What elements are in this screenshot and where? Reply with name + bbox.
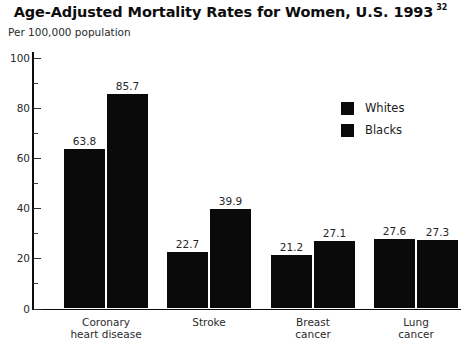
y-tick-label: 0	[2, 304, 30, 315]
y-tick-label: 40	[2, 203, 30, 214]
y-tick-label: 80	[2, 103, 30, 114]
bar-value-label: 22.7	[161, 239, 214, 250]
chart-title-text: Age-Adjusted Mortality Rates for Women, …	[14, 4, 434, 20]
bar-value-label: 63.8	[58, 136, 111, 147]
bar	[417, 240, 458, 308]
chart-title: Age-Adjusted Mortality Rates for Women, …	[0, 4, 461, 20]
bar	[374, 239, 415, 308]
y-tick-major	[33, 309, 41, 310]
bar-value-label: 21.2	[265, 242, 318, 253]
bar-value-label: 27.3	[411, 227, 461, 238]
y-tick-major	[33, 158, 41, 159]
category-label: Lung cancer	[354, 317, 461, 340]
bar	[314, 241, 355, 309]
bar	[271, 255, 312, 308]
chart-title-footnote-superscript: 32	[436, 3, 447, 12]
bar	[167, 252, 208, 309]
bar	[107, 94, 148, 309]
legend-swatch-icon	[341, 102, 354, 115]
y-tick-major	[33, 108, 41, 109]
mortality-bar-chart: Age-Adjusted Mortality Rates for Women, …	[0, 0, 461, 359]
legend: Whites Blacks	[341, 97, 404, 141]
axis-unit-label: Per 100,000 population	[8, 26, 131, 38]
y-axis-line	[32, 52, 34, 310]
y-tick-label: 20	[2, 253, 30, 264]
y-tick-minor	[33, 183, 38, 184]
bar-value-label: 27.1	[308, 228, 361, 239]
x-axis-line	[32, 309, 461, 311]
y-tick-label: 100	[2, 53, 30, 64]
y-tick-minor	[33, 283, 38, 284]
legend-label: Blacks	[365, 123, 402, 137]
y-tick-major	[33, 258, 41, 259]
bar-value-label: 85.7	[101, 81, 154, 92]
y-tick-label: 60	[2, 153, 30, 164]
y-tick-major	[33, 208, 41, 209]
y-tick-minor	[33, 133, 38, 134]
legend-label: Whites	[365, 101, 404, 115]
legend-swatch-icon	[341, 124, 354, 137]
legend-item-blacks[interactable]: Blacks	[341, 119, 404, 141]
y-tick-major	[33, 58, 41, 59]
bar	[210, 209, 251, 309]
legend-item-whites[interactable]: Whites	[341, 97, 404, 119]
bar-value-label: 39.9	[204, 196, 257, 207]
y-tick-minor	[33, 233, 38, 234]
bar	[64, 149, 105, 309]
y-tick-minor	[33, 83, 38, 84]
